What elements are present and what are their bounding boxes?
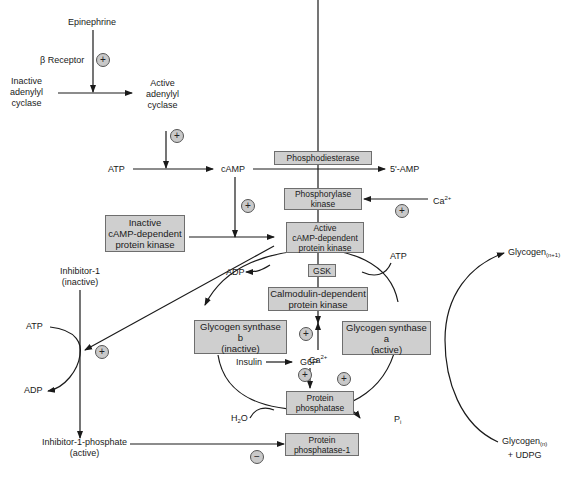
plus-sign-adenylyl-cyclase: + [170, 129, 184, 143]
active-pka-box: Active cAMP-dependent protein kinase [286, 222, 364, 253]
gsk-box: GSK [308, 264, 336, 277]
water-label: H2O [231, 413, 248, 427]
protein-phosphatase-1-box: Protein phosphatase-1 [285, 433, 359, 456]
inactive-adenylyl-cyclase-label: Inactive adenylyl cyclase [10, 76, 43, 109]
plus-sign-g6p: + [337, 372, 351, 386]
glycogen-n-label: Glycogen(n) + UDPG [502, 436, 547, 461]
adp-left-label: ADP [24, 385, 43, 396]
inhibitor-1-phosphate-label: Inhibitor-1-phosphate (active) [42, 437, 127, 459]
plus-sign-calcium-mid: + [299, 327, 313, 341]
glycogen-synthase-b-box: Glycogen synthase b (inactive) [194, 320, 287, 354]
calmodulin-kinase-box: Calmodulin-dependent protein kinase [268, 287, 368, 311]
phosphate-label: Pi [394, 414, 401, 428]
atp-top-label: ATP [108, 164, 125, 175]
active-adenylyl-cyclase-label: Active adenylyl cyclase [146, 78, 179, 111]
atp-right-label: ATP [390, 251, 407, 262]
glycogen-synthase-a-box: Glycogen synthase a (active) [342, 321, 431, 355]
plus-sign-calcium-top: + [395, 204, 409, 218]
phosphodiesterase-box: Phosphodiesterase [274, 151, 372, 165]
camp-label: cAMP [221, 164, 245, 175]
epinephrine-label: Epinephrine [68, 17, 116, 28]
protein-phosphatase-box: Protein phosphatase [286, 391, 354, 415]
beta-receptor-label: β Receptor [40, 55, 84, 66]
inactive-pka-box: Inactive cAMP-dependent protein kinase [105, 215, 185, 252]
insulin-label: Insulin [236, 357, 262, 368]
inhibitor-1-label: Inhibitor-1 (inactive) [60, 266, 100, 288]
plus-sign-insulin: + [298, 368, 312, 382]
phosphorylase-kinase-box: Phosphorylase kinase [284, 188, 362, 210]
five-amp-label: 5'-AMP [390, 164, 419, 175]
plus-sign-camp: + [241, 199, 255, 213]
plus-sign-beta-receptor: + [96, 53, 110, 67]
atp-left-label: ATP [26, 321, 43, 332]
adp-mid-label: ADP [226, 267, 245, 278]
calcium-top-label: Ca2+ [433, 193, 451, 207]
glycogen-n-plus-1-label: Glycogen(n+1) [508, 247, 560, 261]
minus-sign-inhibitor-1-phosphate: − [250, 450, 264, 464]
g6p-label: G6P [300, 357, 318, 368]
plus-sign-inhibitor-1: + [95, 345, 109, 359]
